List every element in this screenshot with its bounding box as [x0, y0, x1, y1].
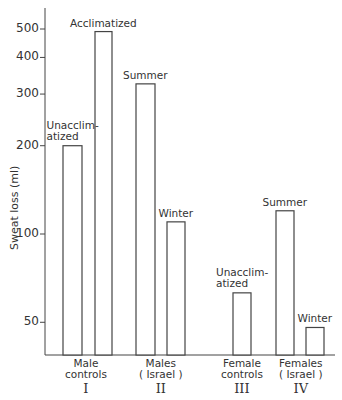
y-tick-label-200: 200	[3, 138, 39, 152]
bar-label: Unacclim-atized	[216, 267, 268, 289]
bar-4	[233, 293, 251, 355]
group-label-1: MalecontrolsI	[65, 358, 107, 394]
y-tick-label-500: 500	[3, 21, 39, 35]
bar-label: Acclimatized	[70, 18, 137, 29]
group-label-3: FemalecontrolsIII	[221, 358, 263, 394]
y-tick-label-100: 100	[3, 226, 39, 240]
bar-3	[167, 222, 185, 355]
y-tick-label-400: 400	[3, 49, 39, 63]
bar-2	[136, 84, 155, 355]
bar-label: Summer	[263, 197, 308, 208]
bar-label: Summer	[123, 70, 168, 81]
bar-label: Winter	[298, 313, 333, 324]
group-label-4: Females( Israel )IV	[279, 358, 323, 394]
group-label-2: Males( Israel )II	[139, 358, 183, 394]
bar-0	[63, 146, 82, 355]
bar-label: Unacclim-atized	[47, 120, 99, 142]
bar-6	[306, 327, 324, 355]
bar-1	[95, 32, 112, 355]
bar-5	[276, 211, 294, 355]
y-tick-label-50: 50	[3, 314, 39, 328]
y-tick-label-300: 300	[3, 86, 39, 100]
bar-label: Winter	[159, 208, 194, 219]
